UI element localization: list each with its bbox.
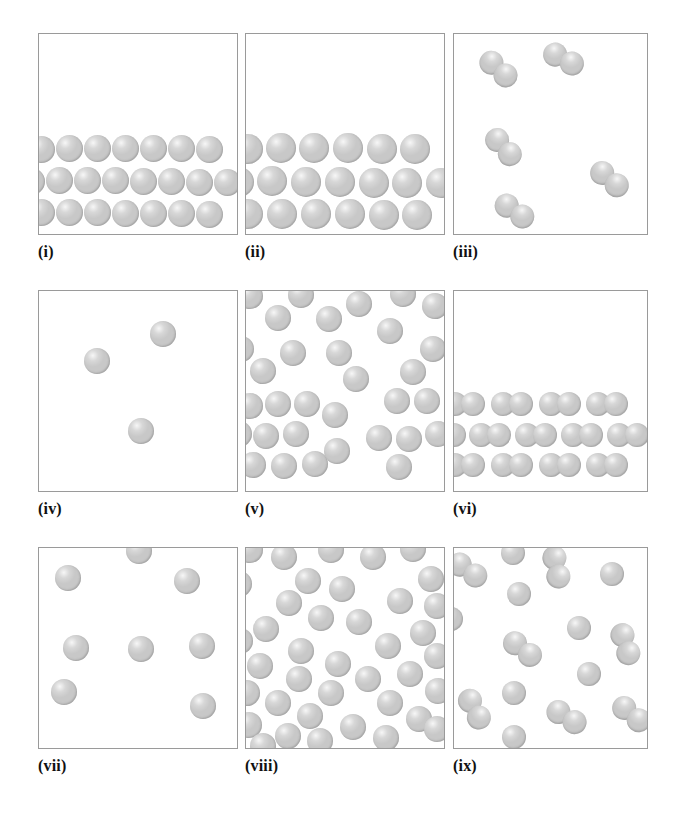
particle xyxy=(346,609,372,635)
particle xyxy=(301,199,331,229)
particle xyxy=(38,168,45,195)
particle xyxy=(253,423,279,449)
particle xyxy=(326,340,352,366)
particle xyxy=(245,336,254,362)
diatomic-molecule xyxy=(480,123,526,171)
particle xyxy=(375,633,401,659)
particle xyxy=(63,635,89,661)
particle xyxy=(579,423,603,447)
particle xyxy=(400,359,426,385)
panel-frame-vi xyxy=(453,290,648,492)
particle xyxy=(509,392,533,416)
particle xyxy=(387,588,413,614)
particle xyxy=(333,133,363,163)
particle xyxy=(168,200,195,227)
panel-frame-iii xyxy=(453,33,648,235)
particle xyxy=(501,547,525,565)
diatomic-molecule xyxy=(607,691,648,737)
particle xyxy=(245,167,254,197)
particle xyxy=(604,392,628,416)
particle xyxy=(265,391,291,417)
particle xyxy=(38,136,55,163)
particle xyxy=(604,453,628,477)
diatomic-molecule xyxy=(515,423,558,447)
particle xyxy=(533,423,557,447)
particle xyxy=(396,426,422,452)
particle xyxy=(377,318,403,344)
diatomic-molecule xyxy=(453,423,466,447)
particle xyxy=(295,568,321,594)
particle xyxy=(424,593,445,619)
particle xyxy=(247,653,273,679)
particle xyxy=(424,643,445,669)
particle xyxy=(366,425,392,451)
particle xyxy=(373,725,399,749)
panel-grid: (i)(ii)(iii)(iv)(v)(vi)(vii)(viii)(ix) xyxy=(0,0,681,818)
diatomic-molecule xyxy=(607,423,648,447)
particle xyxy=(128,418,154,444)
diatomic-molecule xyxy=(453,453,485,477)
particle xyxy=(51,679,77,705)
diatomic-molecule xyxy=(561,423,604,447)
particle xyxy=(390,290,416,307)
particle xyxy=(189,633,215,659)
particle xyxy=(74,167,101,194)
particle xyxy=(343,366,369,392)
particle xyxy=(557,453,581,477)
particle xyxy=(335,199,365,229)
particle xyxy=(487,423,511,447)
particle xyxy=(367,134,397,164)
particle xyxy=(502,681,526,705)
panel-frame-vii xyxy=(38,547,238,749)
diatomic-molecule xyxy=(542,696,591,739)
panel-label-vi: (vi) xyxy=(453,500,477,518)
particle xyxy=(355,666,381,692)
particle xyxy=(288,638,314,664)
particle xyxy=(307,728,333,749)
particle xyxy=(397,661,423,687)
particle xyxy=(461,392,485,416)
particle xyxy=(299,133,329,163)
panel-frame-ii xyxy=(245,33,445,235)
particle xyxy=(426,168,445,198)
particle xyxy=(245,290,263,309)
particle xyxy=(392,168,422,198)
particle xyxy=(384,388,410,414)
particle xyxy=(329,576,355,602)
particle xyxy=(276,590,302,616)
particle xyxy=(38,199,55,226)
particle xyxy=(567,616,591,640)
diatomic-molecule xyxy=(585,156,633,202)
particle xyxy=(360,547,386,570)
particle xyxy=(265,305,291,331)
diatomic-molecule xyxy=(586,392,629,416)
particle xyxy=(56,199,83,226)
particle xyxy=(324,438,350,464)
particle xyxy=(150,321,176,347)
particle xyxy=(377,690,403,716)
particle xyxy=(245,571,252,597)
panel-label-ii: (ii) xyxy=(245,243,265,261)
diatomic-molecule xyxy=(586,453,629,477)
diatomic-molecule xyxy=(469,423,512,447)
particle xyxy=(509,453,533,477)
particle xyxy=(245,547,263,563)
particle xyxy=(140,200,167,227)
particle xyxy=(245,199,263,229)
particle xyxy=(84,199,111,226)
particle xyxy=(275,723,301,749)
particle xyxy=(291,167,321,197)
particle xyxy=(297,703,323,729)
particle xyxy=(196,136,223,163)
particle xyxy=(325,167,355,197)
particle xyxy=(418,566,444,592)
particle xyxy=(420,336,445,362)
particle xyxy=(56,135,83,162)
panel-label-viii: (viii) xyxy=(245,757,278,775)
particle xyxy=(600,562,624,586)
panel-label-ix: (ix) xyxy=(453,757,477,775)
particle xyxy=(267,199,297,229)
diatomic-molecule xyxy=(453,392,485,416)
panel-frame-v xyxy=(245,290,445,492)
particle xyxy=(340,714,366,740)
